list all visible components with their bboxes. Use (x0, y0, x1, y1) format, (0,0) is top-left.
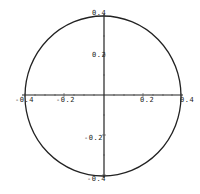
y-tick-label: -0.2 (84, 135, 103, 142)
x-tick-label: 0.4 (180, 97, 194, 104)
y-tick-label: 0.4 (92, 10, 106, 17)
y-tick-label: 0.2 (92, 52, 106, 59)
x-tick-label: -0.2 (56, 97, 75, 104)
circle-curve (25, 16, 181, 176)
y-tick-label: -0.4 (87, 176, 106, 183)
x-tick-label: 0.2 (140, 97, 154, 104)
x-tick-label: -0.4 (15, 97, 34, 104)
